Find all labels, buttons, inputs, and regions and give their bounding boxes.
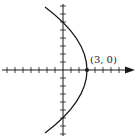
vertex-label: (3, 0) [90,54,117,65]
x-axis-arrow-icon [125,67,135,74]
parabola-graph: (3, 0) [0,0,137,140]
vertex-point [85,68,89,72]
